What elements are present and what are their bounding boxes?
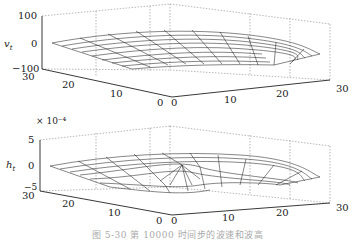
bottom-y-tick-0: 0: [156, 216, 162, 226]
top-y-tick-20: 20: [62, 80, 75, 90]
top-x-tick-20: 20: [276, 89, 289, 99]
bottom-x-tick-20: 20: [276, 208, 289, 218]
bottom-exponent-label: × 10⁻⁴: [36, 117, 66, 126]
top-z-tick-100: 100: [18, 11, 37, 21]
top-y-tick-0: 0: [157, 98, 163, 108]
figure-caption: 图 5-30 第 10000 时间步的波速和波高: [0, 228, 355, 241]
top-surface-svg: [0, 0, 355, 115]
top-x-tick-10: 10: [224, 95, 237, 105]
top-y-tick-30: 30: [22, 72, 35, 82]
bottom-z-tick-5: 5: [28, 135, 34, 145]
bottom-surface-plot: × 10⁻⁴ ht 5 0 −5 30 20 10 0 0 10 20 30: [0, 115, 355, 227]
bottom-x-tick-0: 0: [171, 216, 177, 226]
top-z-tick-0: 0: [31, 39, 37, 49]
bottom-x-tick-10: 10: [222, 213, 235, 223]
bottom-z-tick-0: 0: [28, 161, 34, 171]
bottom-y-tick-10: 10: [108, 208, 121, 218]
top-surface-plot: vt 100 0 −100 30 20 10 0 0 10 20 30: [0, 0, 355, 115]
bottom-surface-svg: [0, 115, 355, 227]
bottom-y-tick-20: 20: [62, 199, 75, 209]
bottom-y-tick-30: 30: [22, 191, 35, 201]
top-x-tick-0: 0: [171, 98, 177, 108]
top-y-tick-10: 10: [110, 89, 123, 99]
bottom-x-tick-30: 30: [336, 203, 349, 213]
bottom-z-axis-label: ht: [6, 160, 15, 173]
top-x-tick-30: 30: [336, 84, 349, 94]
top-z-axis-label: vt: [4, 39, 12, 52]
